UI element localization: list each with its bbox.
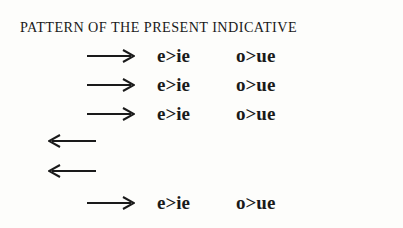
- o-to-ue-change: o>ue: [236, 104, 275, 123]
- e-to-ie-change: e>ie: [157, 104, 190, 123]
- pattern-row-2: e>ie o>ue: [0, 73, 403, 97]
- pattern-row-3: e>ie o>ue: [0, 102, 403, 126]
- right-arrow-icon: [87, 49, 135, 63]
- right-arrow-icon: [87, 78, 135, 92]
- pattern-row-6: e>ie o>ue: [0, 191, 403, 215]
- left-arrow-icon: [48, 134, 96, 148]
- page-title: PATTERN OF THE PRESENT INDICATIVE: [20, 19, 384, 36]
- pattern-row-5: [0, 164, 403, 188]
- o-to-ue-change: o>ue: [236, 193, 275, 212]
- left-arrow-icon: [48, 164, 96, 178]
- right-arrow-icon: [87, 107, 135, 121]
- e-to-ie-change: e>ie: [157, 46, 190, 65]
- pattern-row-1: e>ie o>ue: [0, 44, 403, 68]
- pattern-row-4: [0, 134, 403, 158]
- o-to-ue-change: o>ue: [236, 75, 275, 94]
- o-to-ue-change: o>ue: [236, 46, 275, 65]
- e-to-ie-change: e>ie: [157, 75, 190, 94]
- e-to-ie-change: e>ie: [157, 193, 190, 212]
- right-arrow-icon: [87, 196, 135, 210]
